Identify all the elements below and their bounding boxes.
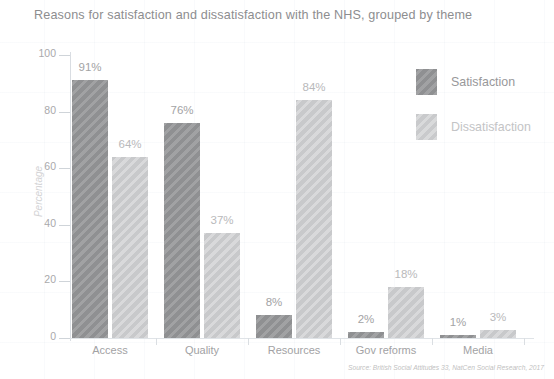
y-axis-tick-mark — [59, 168, 70, 169]
chart-title: Reasons for satisfaction and dissatisfac… — [34, 8, 534, 22]
bar-value-label: 76% — [170, 104, 193, 116]
legend-item-satisfaction[interactable]: Satisfaction — [416, 68, 531, 96]
bar-value-label: 3% — [490, 311, 507, 323]
bar-value-label: 84% — [302, 81, 325, 93]
y-axis-tick-label: 40 — [16, 217, 56, 229]
source-note: Source: British Social Attitudes 33, Nat… — [348, 364, 544, 371]
y-axis-tick-label: 80 — [16, 104, 56, 116]
bar-value-label: 37% — [210, 214, 233, 226]
bar-resources-dis[interactable]: 84% — [296, 100, 332, 338]
x-axis-label-gov-reforms: Gov reforms — [356, 344, 417, 356]
bar-access-sat[interactable]: 91% — [72, 80, 108, 338]
x-axis-label-access: Access — [92, 344, 127, 356]
y-axis-tick-label: 20 — [16, 273, 56, 285]
legend-item-dissatisfaction[interactable]: Dissatisfaction — [416, 113, 531, 141]
chart-legend: Satisfaction Dissatisfaction — [416, 68, 531, 158]
y-axis-tick-mark — [59, 112, 70, 113]
bar-quality-dis[interactable]: 37% — [204, 233, 240, 338]
y-axis-tick-label: 0 — [16, 330, 56, 342]
y-axis-tick-label: 60 — [16, 160, 56, 172]
chart-container: Reasons for satisfaction and dissatisfac… — [0, 0, 554, 379]
y-axis-tick-label: 100 — [16, 47, 56, 59]
legend-swatch-dissatisfaction — [416, 114, 437, 140]
bar-gov-reforms-dis[interactable]: 18% — [388, 287, 424, 338]
bar-value-label: 64% — [118, 138, 141, 150]
bar-value-label: 1% — [450, 316, 467, 328]
bar-value-label: 91% — [78, 61, 101, 73]
legend-label-satisfaction: Satisfaction — [451, 75, 515, 89]
y-axis-tick-mark — [59, 338, 70, 339]
x-axis-separator — [340, 338, 341, 345]
bar-gov-reforms-sat[interactable]: 2% — [348, 332, 384, 338]
y-axis-tick-mark — [59, 281, 70, 282]
y-axis-tick-mark — [59, 55, 70, 56]
x-axis-label-resources: Resources — [268, 344, 321, 356]
legend-swatch-satisfaction — [416, 69, 437, 95]
bar-media-sat[interactable]: 1% — [440, 335, 476, 338]
y-axis-tick-mark — [59, 225, 70, 226]
bar-quality-sat[interactable]: 76% — [164, 123, 200, 338]
legend-label-dissatisfaction: Dissatisfaction — [451, 120, 531, 134]
bar-resources-sat[interactable]: 8% — [256, 315, 292, 338]
bar-value-label: 2% — [358, 313, 375, 325]
x-axis-separator — [248, 338, 249, 345]
bar-value-label: 8% — [266, 296, 283, 308]
bar-access-dis[interactable]: 64% — [112, 157, 148, 338]
x-axis-label-quality: Quality — [185, 344, 219, 356]
x-axis-separator — [156, 338, 157, 345]
x-axis-separator — [432, 338, 433, 345]
bar-value-label: 18% — [394, 268, 417, 280]
bar-media-dis[interactable]: 3% — [480, 330, 516, 338]
x-axis-separator — [524, 338, 525, 345]
x-axis-line — [70, 338, 534, 339]
x-axis-label-media: Media — [463, 344, 493, 356]
